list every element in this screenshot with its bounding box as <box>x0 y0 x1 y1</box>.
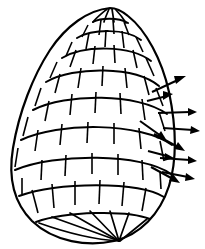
joint <box>105 30 106 47</box>
joint <box>65 155 66 176</box>
joint <box>87 122 88 143</box>
joint <box>99 180 100 204</box>
figure-root <box>0 0 205 249</box>
joint <box>113 20 114 34</box>
joint <box>142 160 143 180</box>
joint <box>102 66 103 86</box>
joint <box>120 93 121 114</box>
joint <box>95 92 96 113</box>
ovoid-shell-diagram <box>0 0 205 249</box>
joint <box>41 160 42 180</box>
joint <box>160 172 161 189</box>
joint <box>114 45 115 63</box>
arrow-shaft <box>158 112 190 113</box>
